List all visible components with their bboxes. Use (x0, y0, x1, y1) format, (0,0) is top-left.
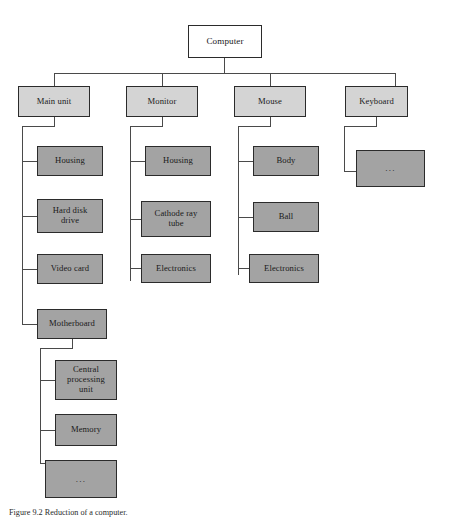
node-label: Ball (277, 212, 296, 222)
connector-main-unit-stem (54, 117, 55, 126)
connector-keyboard-spine (344, 126, 345, 172)
connector-monitor-stem (162, 117, 163, 126)
node-label: Body (274, 156, 297, 166)
node-keyboard: Keyboard (345, 86, 408, 117)
node-label: Motherboard (47, 319, 97, 329)
node-label: Computer (204, 36, 245, 47)
connector-motherboard-jog (40, 348, 73, 349)
connector-mouse-stem (270, 117, 271, 126)
connector-main-unit-spine (22, 126, 23, 325)
node-label: Memory (69, 425, 103, 435)
node-label: ... (383, 163, 397, 173)
node-mouse-electronics: Electronics (249, 254, 319, 283)
connector-stub-monitor-housing (130, 161, 145, 162)
node-label: Housing (161, 156, 195, 166)
figure-caption: Figure 9.2 Reduction of a computer. (9, 508, 439, 517)
node-memory: Memory (55, 414, 117, 446)
connector-monitor-spine (130, 126, 131, 281)
node-label: Main unit (35, 97, 74, 107)
connector-stub-video-card (22, 269, 37, 270)
node-label: Mouse (256, 97, 284, 107)
node-label: Cathode ray tube (153, 209, 200, 229)
node-motherboard-ellipsis: ... (45, 460, 117, 498)
node-label: Keyboard (357, 97, 396, 107)
node-main-unit-housing: Housing (37, 146, 103, 176)
node-monitor: Monitor (126, 86, 198, 117)
connector-drop-main-unit (54, 73, 55, 86)
node-motherboard: Motherboard (37, 309, 107, 339)
node-label: Monitor (146, 97, 179, 107)
node-monitor-housing: Housing (145, 146, 211, 176)
node-label: Electronics (154, 264, 198, 274)
node-hard-disk-drive: Hard disk drive (37, 199, 103, 233)
node-cathode-ray-tube: Cathode ray tube (141, 201, 211, 237)
tree-diagram: Computer Main unit Monitor Mouse Keyboar… (0, 0, 449, 519)
connector-motherboard-spine (40, 348, 41, 463)
connector-keyboard-jog (344, 126, 377, 127)
connector-stub-motherboard (22, 324, 37, 325)
connector-keyboard-stem (376, 117, 377, 126)
connector-root-drop (224, 58, 225, 73)
node-label: Video card (49, 264, 91, 274)
node-monitor-electronics: Electronics (141, 254, 211, 283)
node-label: Electronics (262, 264, 306, 274)
node-mouse: Mouse (234, 86, 306, 117)
node-mouse-body: Body (253, 146, 319, 176)
connector-stub-body (238, 161, 253, 162)
node-computer: Computer (188, 25, 262, 58)
node-label: Housing (53, 156, 87, 166)
node-label: ... (74, 474, 88, 484)
connector-drop-keyboard (395, 73, 396, 86)
connector-stub-housing (22, 161, 37, 162)
node-keyboard-ellipsis: ... (356, 150, 425, 187)
node-central-processing-unit: Central processing unit (55, 360, 117, 400)
connector-drop-monitor (162, 73, 163, 86)
connector-mouse-jog (238, 126, 271, 127)
node-label: Hard disk drive (51, 206, 90, 226)
connector-monitor-jog (130, 126, 163, 127)
connector-mouse-spine (238, 126, 239, 275)
connector-stub-hard-disk-drive (22, 216, 37, 217)
connector-drop-mouse (270, 73, 271, 86)
node-mouse-ball: Ball (253, 202, 319, 232)
connector-stub-memory (40, 430, 55, 431)
connector-main-unit-jog (22, 126, 55, 127)
connector-stub-cpu (40, 380, 55, 381)
connector-level2-bus (54, 73, 395, 74)
node-label: Central processing unit (65, 365, 107, 395)
connector-stub-ball (238, 217, 253, 218)
node-video-card: Video card (37, 254, 103, 284)
connector-motherboard-stem (72, 339, 73, 348)
node-main-unit: Main unit (18, 86, 90, 117)
